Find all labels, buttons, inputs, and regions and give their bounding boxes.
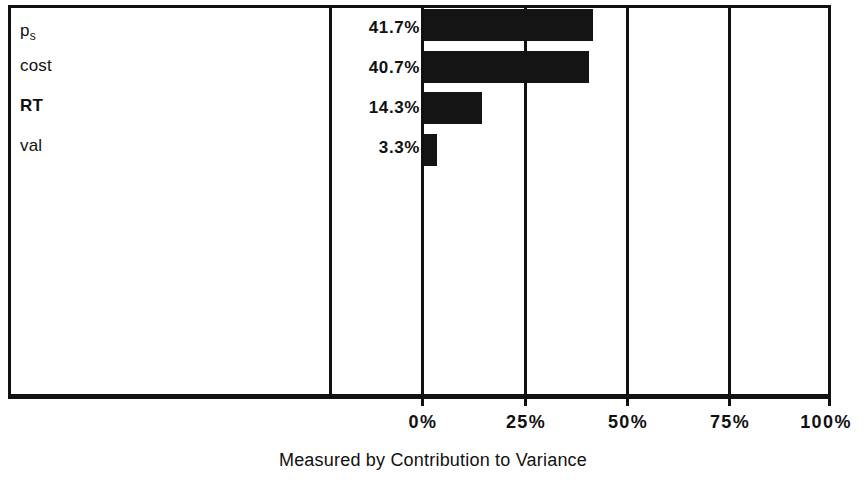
row-label-ps-text: p: [20, 21, 30, 40]
x-tick-label-0: 0%: [409, 412, 438, 433]
bar-ps: [424, 9, 593, 41]
x-tick-label-50: 50%: [608, 412, 648, 433]
row-label-cost-text: cost: [20, 56, 52, 75]
row-label-rt-text: RT: [20, 96, 43, 115]
bars-layer: [0, 0, 866, 480]
x-axis-caption: Measured by Contribution to Variance: [0, 450, 866, 471]
x-tick-100: [828, 395, 831, 406]
row-label-rt: RT: [20, 96, 43, 116]
row-label-cost: cost: [20, 56, 52, 76]
x-tick-0: [421, 395, 424, 406]
row-label-val-text: val: [20, 136, 42, 155]
value-label-ps: 41.7%: [338, 18, 420, 38]
row-label-ps: ps: [20, 21, 36, 42]
x-tick-label-75: 75%: [710, 412, 750, 433]
x-axis-line: [8, 395, 831, 399]
x-tick-label-25: 25%: [506, 412, 546, 433]
row-label-val: val: [20, 136, 42, 156]
bar-rt: [424, 92, 482, 124]
pareto-bar-chart: ps cost RT val 41.7% 40.7% 14.3% 3.3% 0%…: [0, 0, 866, 480]
x-tick-50: [626, 395, 629, 406]
value-label-val: 3.3%: [338, 138, 420, 158]
x-tick-25: [524, 395, 527, 406]
x-tick-75: [728, 395, 731, 406]
value-label-cost: 40.7%: [338, 58, 420, 78]
bar-cost: [424, 51, 589, 83]
x-tick-label-100: 100%: [800, 412, 852, 433]
value-label-rt: 14.3%: [338, 98, 420, 118]
bar-val: [424, 134, 437, 166]
row-label-ps-subscript: s: [30, 29, 36, 43]
